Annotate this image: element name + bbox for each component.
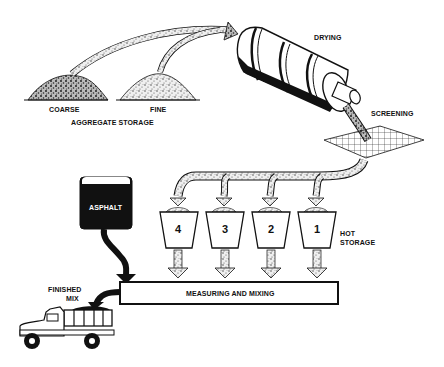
bin-1-number: 1: [307, 223, 327, 235]
bin-1-outlet-arrow: [307, 250, 327, 278]
finished-mix-label-line2: MIX: [66, 295, 79, 303]
drying-label: DRYING: [314, 34, 342, 42]
dryer-feed-arrowhead: [224, 22, 238, 40]
bin-4-number: 4: [168, 223, 188, 235]
asphalt-tank: [80, 177, 132, 229]
screening-mesh: [324, 126, 424, 158]
hot-storage-label-line1: HOT: [340, 230, 355, 238]
measuring-mixing-label: MEASURING AND MIXING: [186, 290, 274, 298]
bin-1-inlet-arrow: [308, 198, 324, 206]
bin-3-number: 3: [215, 223, 235, 235]
screen-to-bins-conveyor: [178, 160, 364, 196]
process-diagram: [0, 0, 444, 367]
bin-2-number: 2: [261, 223, 281, 235]
coarse-aggregate-pile: [28, 75, 108, 100]
hot-storage-label-line2: STORAGE: [340, 239, 375, 247]
finished-mix-label-line1: FINISHED: [48, 286, 81, 294]
asphalt-label: ASPHALT: [89, 204, 122, 212]
fine-label: FINE: [150, 106, 166, 114]
fine-aggregate-pile: [120, 74, 196, 100]
coarse-label: COARSE: [49, 106, 80, 114]
bin-4-inlet-arrow: [170, 198, 186, 206]
bin-2-outlet-arrow: [261, 250, 281, 278]
bin-3-outlet-arrow: [215, 250, 235, 278]
coarse-conveyor-arrow: [72, 29, 230, 74]
drying-drum: [237, 27, 362, 115]
bin-4-outlet-arrow: [168, 250, 188, 278]
dump-truck: [20, 306, 114, 349]
screening-label: SCREENING: [371, 110, 414, 118]
asphalt-feed-pipe: [104, 229, 136, 284]
bin-3-inlet-arrow: [216, 198, 232, 206]
bin-2-inlet-arrow: [262, 198, 278, 206]
aggregate-storage-label: AGGREGATE STORAGE: [71, 119, 154, 127]
